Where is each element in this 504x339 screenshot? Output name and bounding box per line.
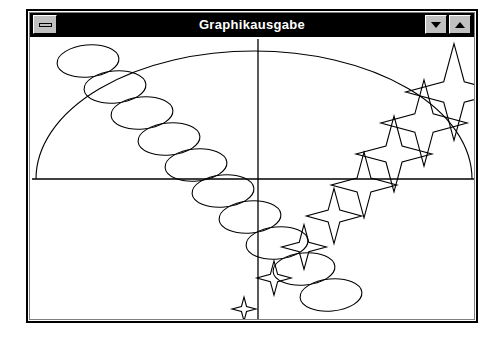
maximize-button[interactable] xyxy=(449,15,471,34)
ellipse-3 xyxy=(137,120,202,157)
plot-svg xyxy=(30,37,474,319)
ellipse-2 xyxy=(110,94,175,131)
ellipse-6 xyxy=(218,198,283,235)
plot-arc xyxy=(36,51,472,179)
window-titlebar[interactable]: Graphikausgabe xyxy=(30,13,474,37)
screen-root: Graphikausgabe xyxy=(0,0,504,339)
plot-axes xyxy=(32,39,474,319)
star-6 xyxy=(381,80,467,166)
system-menu-button[interactable] xyxy=(33,15,57,34)
star-0 xyxy=(232,297,256,319)
triangle-down-icon xyxy=(431,22,441,28)
ellipse-1 xyxy=(83,68,148,105)
ellipse-9 xyxy=(299,276,364,313)
plot-ellipse-chain xyxy=(56,42,364,313)
system-menu-icon xyxy=(39,23,52,27)
ellipse-5 xyxy=(191,172,256,209)
window-title: Graphikausgabe xyxy=(30,13,474,37)
star-4 xyxy=(331,152,397,218)
triangle-up-icon xyxy=(455,22,465,28)
ellipse-7 xyxy=(245,224,310,261)
window-client-frame: Graphikausgabe xyxy=(29,12,475,320)
ellipse-4 xyxy=(164,146,229,183)
plot-star-chain xyxy=(232,44,474,319)
star-3 xyxy=(306,188,361,243)
minimize-button[interactable] xyxy=(425,15,447,34)
star-2 xyxy=(282,225,327,270)
semicircle-arc xyxy=(36,51,472,179)
star-7 xyxy=(406,44,474,141)
ellipse-0 xyxy=(56,42,121,79)
graphics-output-window: Graphikausgabe xyxy=(26,9,478,323)
graphics-canvas xyxy=(30,37,474,319)
